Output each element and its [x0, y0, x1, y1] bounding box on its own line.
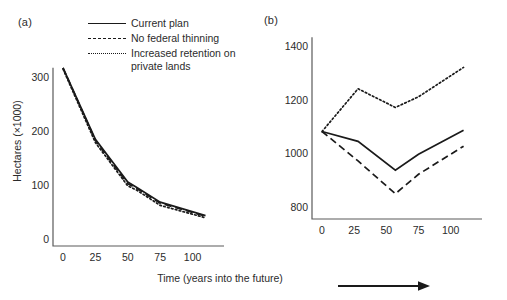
data-series-dashed [63, 68, 206, 216]
x-tick-label: 100 [173, 251, 213, 263]
y-tick-label: 1000 [266, 147, 308, 159]
y-tick-label: 0 [7, 233, 49, 245]
data-series-solid [322, 130, 464, 170]
data-series-solid [63, 68, 206, 216]
y-tick-label: 1200 [266, 94, 308, 106]
axis-spine [312, 37, 482, 219]
data-series-dotted [322, 67, 464, 131]
axis-spine [53, 68, 224, 246]
y-tick-label: 300 [7, 71, 49, 83]
y-tick-label: 100 [7, 179, 49, 191]
data-series-dotted [63, 69, 206, 218]
figure-container: (a) (b) Hectares (×1000) Time (years int… [0, 0, 507, 300]
y-tick-label: 1400 [266, 40, 308, 52]
y-tick-label: 200 [7, 125, 49, 137]
time-direction-arrow [338, 278, 430, 290]
x-tick-label: 100 [431, 224, 471, 236]
y-tick-label: 800 [266, 201, 308, 213]
